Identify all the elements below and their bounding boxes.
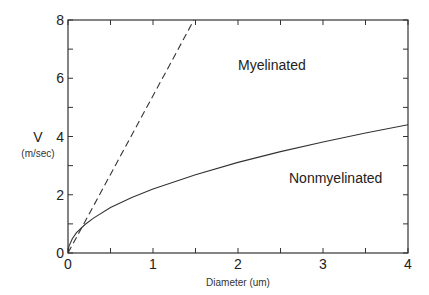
x-tick-labels: 01234 bbox=[64, 256, 412, 272]
series-nonmyelinated-line bbox=[68, 125, 408, 253]
x-tick-label: 2 bbox=[234, 256, 242, 272]
annotation-myelinated: Myelinated bbox=[238, 57, 306, 73]
y-tick-labels: 02468 bbox=[56, 12, 64, 261]
y-tick-label: 2 bbox=[56, 187, 64, 203]
y-tick-label: 6 bbox=[56, 70, 64, 86]
y-axis-units: (m/sec) bbox=[21, 148, 54, 159]
x-tick-label: 4 bbox=[404, 256, 412, 272]
plot-frame bbox=[68, 20, 408, 253]
annotations: MyelinatedNonmyelinated bbox=[238, 57, 382, 187]
x-tick-label: 3 bbox=[319, 256, 327, 272]
x-tick-label: 1 bbox=[149, 256, 157, 272]
y-tick-label: 8 bbox=[56, 12, 64, 28]
series-group bbox=[68, 20, 408, 253]
x-tick-label: 0 bbox=[64, 256, 72, 272]
y-tick-label: 4 bbox=[56, 129, 64, 145]
chart: 01234 02468 Diameter (um) V (m/sec) Myel… bbox=[0, 0, 429, 295]
axis-ticks bbox=[68, 20, 408, 253]
y-tick-label: 0 bbox=[56, 245, 64, 261]
x-axis-title: Diameter (um) bbox=[206, 277, 270, 288]
annotation-nonmyelinated: Nonmyelinated bbox=[289, 170, 382, 186]
series-myelinated-line bbox=[68, 20, 194, 253]
y-axis-title: V bbox=[33, 129, 43, 145]
